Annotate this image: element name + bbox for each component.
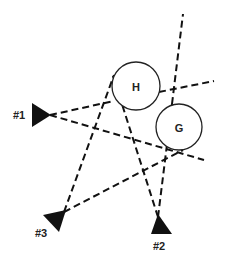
sight-line-2-to-G-extension <box>172 14 183 104</box>
sight-line-3-to-H <box>64 75 114 212</box>
target-G-label: G <box>175 122 184 134</box>
station-1-triangle-icon <box>32 103 51 127</box>
station-2-triangle-icon <box>151 214 172 234</box>
station-2-label: #2 <box>153 240 165 252</box>
station-3-label: #3 <box>35 227 47 239</box>
target-H-label: H <box>132 81 140 93</box>
sight-line-1-to-H-extension <box>159 81 214 92</box>
station-1: #1 <box>13 103 51 127</box>
target-G: G <box>156 104 202 150</box>
sighting-diagram: H G #1 #2 #3 <box>0 0 225 266</box>
station-3: #3 <box>35 210 66 239</box>
station-1-label: #1 <box>13 109 25 121</box>
target-H: H <box>112 62 160 110</box>
station-2: #2 <box>151 214 172 252</box>
